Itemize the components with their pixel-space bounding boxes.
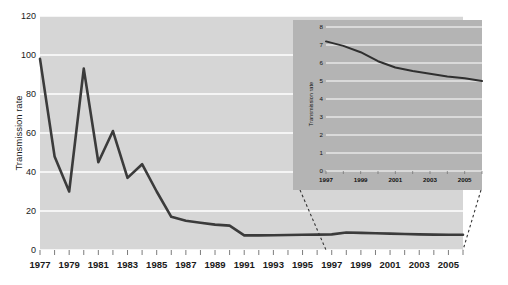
y-tick-label: 5 — [320, 77, 324, 84]
y-tick-label: 1 — [320, 149, 324, 156]
main-x-tick-labels: 1977197919811983198519871989199119931995… — [29, 259, 459, 270]
x-tick-label: 1983 — [117, 259, 138, 270]
y-tick-label: 6 — [320, 59, 324, 66]
x-tick-label: 1991 — [234, 259, 256, 270]
y-tick-label: 120 — [21, 11, 36, 21]
inset-y-axis-title: Transmission rate — [308, 82, 314, 126]
x-tick-label: 1999 — [350, 259, 371, 270]
x-tick-label: 1995 — [292, 259, 314, 270]
x-tick-label: 2001 — [388, 176, 402, 183]
x-tick-label: 1985 — [146, 259, 168, 270]
x-tick-label: 1997 — [319, 176, 333, 183]
x-tick-label: 1979 — [59, 259, 80, 270]
x-tick-label: 1993 — [263, 259, 284, 270]
chart-canvas: 020406080100120 197719791981198319851987… — [0, 0, 508, 285]
x-tick-label: 2003 — [409, 259, 430, 270]
x-tick-label: 1997 — [321, 259, 342, 270]
y-tick-label: 20 — [26, 206, 36, 216]
y-tick-label: 7 — [320, 41, 324, 48]
x-tick-label: 2005 — [458, 176, 472, 183]
y-tick-label: 3 — [320, 113, 324, 120]
y-tick-label: 60 — [26, 128, 36, 138]
x-tick-label: 2001 — [379, 259, 401, 270]
x-tick-label: 1987 — [175, 259, 196, 270]
x-tick-label: 2005 — [438, 259, 460, 270]
y-tick-label: 2 — [320, 131, 324, 138]
y-tick-label: 80 — [26, 89, 36, 99]
inset-y-tick-labels: 012345678 — [320, 23, 324, 174]
x-tick-label: 1981 — [88, 259, 110, 270]
y-tick-label: 100 — [21, 50, 36, 60]
x-tick-label: 2003 — [423, 176, 437, 183]
x-tick-label: 1977 — [29, 259, 50, 270]
y-tick-label: 0 — [320, 167, 324, 174]
connector-right-dashed-line — [463, 190, 481, 250]
x-tick-label: 1989 — [204, 259, 225, 270]
y-tick-label: 4 — [320, 95, 324, 102]
transmission-rate-figure: 020406080100120 197719791981198319851987… — [0, 0, 508, 285]
main-y-axis-title: Transmission rate — [13, 95, 24, 170]
y-tick-label: 8 — [320, 23, 324, 30]
y-tick-label: 0 — [31, 245, 36, 255]
y-tick-label: 40 — [26, 167, 36, 177]
inset-chart: 012345678 19971999200120032005 Transmiss… — [293, 20, 482, 190]
x-tick-label: 1999 — [354, 176, 368, 183]
